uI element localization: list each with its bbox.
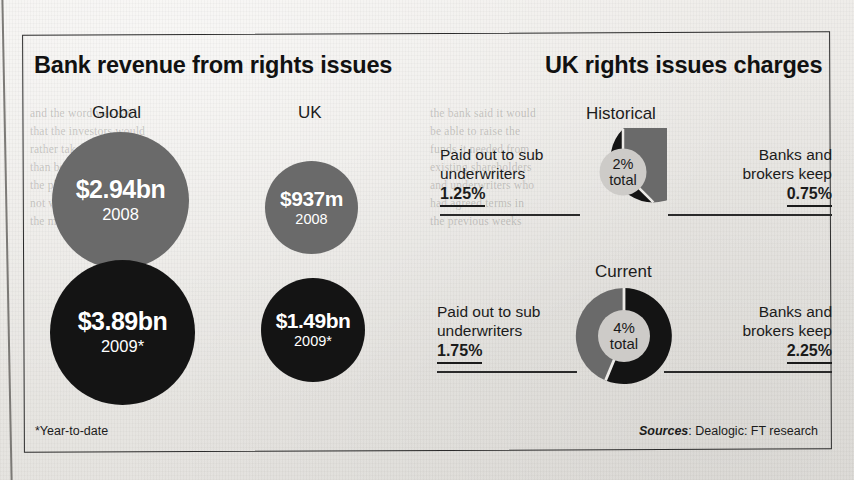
bubble-global-2009: $3.89bn 2009* xyxy=(50,260,195,405)
donut-center-unit: total xyxy=(609,172,636,187)
sources-label: Sources xyxy=(639,424,688,438)
annotation-value: 1.25% xyxy=(440,185,485,207)
bubble-year: 2009* xyxy=(101,337,144,355)
bubble-year: 2008 xyxy=(295,212,327,228)
sources-text: : Dealogic: FT research xyxy=(688,424,818,438)
bubble-amount: $3.89bn xyxy=(78,309,168,334)
leader-line-current-right xyxy=(664,371,832,373)
bubble-amount: $1.49bn xyxy=(276,310,351,331)
leader-line-historical-left xyxy=(440,214,580,216)
annotation-value: 0.75% xyxy=(787,185,832,207)
annotation-line-1: Banks and xyxy=(697,303,832,322)
footnote-year-to-date: *Year-to-date xyxy=(35,424,108,438)
bubble-amount: $937m xyxy=(280,188,343,209)
annotation-line-1: Paid out to sub xyxy=(440,146,585,165)
column-label-uk: UK xyxy=(298,103,322,123)
page-title-left: Bank revenue from rights issues xyxy=(34,52,392,79)
annotation-line-2: underwriters xyxy=(437,322,587,341)
annotation-current-banks-keep: Banks and brokers keep 2.25% xyxy=(697,303,832,364)
leader-line-current-left xyxy=(437,371,577,373)
page-title-right: UK rights issues charges xyxy=(545,52,822,79)
annotation-current-paid-out: Paid out to sub underwriters 1.75% xyxy=(437,303,587,364)
column-label-global: Global xyxy=(92,103,141,123)
donut-center-historical: 2% total xyxy=(600,149,647,196)
infographic-page: and the word was said that the investors… xyxy=(0,0,854,480)
annotation-line-1: Banks and xyxy=(700,146,832,165)
annotation-value: 1.75% xyxy=(437,342,482,364)
donut-chart-historical: 2% total xyxy=(579,128,667,216)
donut-center-value: 4% xyxy=(613,320,635,336)
sources-line: Sources: Dealogic: FT research xyxy=(639,424,818,438)
bubble-amount: $2.94bn xyxy=(76,177,166,202)
donut-chart-current: 4% total xyxy=(575,287,673,385)
annotation-line-2: underwriters xyxy=(440,165,585,184)
donut-center-current: 4% total xyxy=(598,310,650,362)
donut-label-current: Current xyxy=(595,262,652,282)
annotation-line-1: Paid out to sub xyxy=(437,303,587,322)
newspaper-column-rule xyxy=(1,0,12,480)
bubble-uk-2009: $1.49bn 2009* xyxy=(261,278,365,382)
annotation-historical-banks-keep: Banks and brokers keep 0.75% xyxy=(700,146,832,207)
annotation-line-2: brokers keep xyxy=(700,165,832,184)
annotation-value: 2.25% xyxy=(787,342,832,364)
bubble-uk-2008: $937m 2008 xyxy=(265,161,358,254)
bubble-global-2008: $2.94bn 2008 xyxy=(52,132,189,269)
donut-center-unit: total xyxy=(610,336,638,352)
bubble-year: 2008 xyxy=(102,205,139,223)
leader-line-historical-right xyxy=(668,214,832,216)
annotation-line-2: brokers keep xyxy=(697,322,832,341)
donut-center-value: 2% xyxy=(613,157,634,172)
annotation-historical-paid-out: Paid out to sub underwriters 1.25% xyxy=(440,146,585,207)
donut-label-historical: Historical xyxy=(586,104,656,124)
bubble-year: 2009* xyxy=(294,334,332,350)
